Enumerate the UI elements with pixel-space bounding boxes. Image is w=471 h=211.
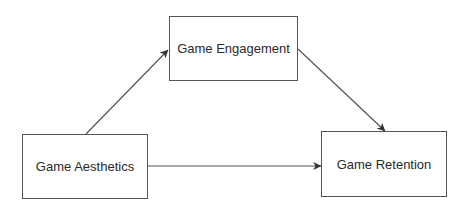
node-label: Game Aesthetics [36,159,134,174]
diagram-canvas: Game Aesthetics Game Engagement Game Ret… [0,0,471,211]
arrow-engagement-to-retention [298,49,385,131]
node-label: Game Retention [337,157,432,172]
node-label: Game Engagement [177,41,290,56]
arrow-aesthetics-to-engagement [86,50,168,134]
node-game-engagement: Game Engagement [169,16,298,81]
node-game-retention: Game Retention [321,131,447,197]
node-game-aesthetics: Game Aesthetics [22,134,148,199]
